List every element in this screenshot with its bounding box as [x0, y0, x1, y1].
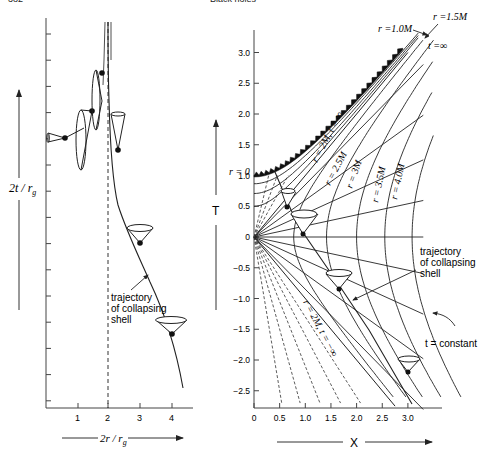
t-const-line-dashed: [254, 237, 320, 403]
right-x-ticks: 00.51.01.52.02.53.0: [252, 403, 414, 423]
left-x-tick-label: 3: [137, 413, 142, 423]
left-x-ticks: 1234: [75, 403, 174, 423]
left-annotation-line-2: of collapsing: [111, 303, 167, 314]
t-const-line-dashed: [254, 237, 341, 403]
right-x-tick-label: 0: [252, 413, 257, 423]
r15-leader-line: [425, 24, 438, 38]
left-x-axis-label: 2r / rg: [100, 432, 127, 447]
right-y-tick-label: 2.5: [238, 78, 250, 88]
right-y-axis-label: T: [212, 204, 220, 218]
right-light-cone-4: [398, 356, 420, 375]
label-t-infinity: t =∞: [428, 40, 447, 51]
t-const-line-dashed: [254, 237, 282, 403]
left-annotation-line-3: shell: [111, 314, 132, 325]
left-x-tick-label: 2: [105, 413, 110, 423]
right-x-tick-label: 3.0: [402, 413, 414, 423]
right-y-tick-label: −1.0: [233, 294, 250, 304]
right-x-axis-label: X: [350, 436, 358, 450]
light-cone-inner-2: [76, 108, 95, 170]
left-y-axis-label: 2t / rg: [9, 181, 36, 197]
label-r-3M: r = 3M: [344, 158, 364, 190]
t-const-line-dashed: [254, 176, 288, 238]
right-annotation-line-1: trajectory: [420, 246, 461, 257]
right-y-tick-label: −2.0: [233, 355, 250, 365]
right-annotation-arrow: [353, 270, 416, 300]
left-panel: 1234: [9, 18, 193, 447]
label-r-0: r = 0: [229, 166, 250, 177]
right-x-tick-label: 0.5: [274, 413, 286, 423]
left-annotation-arrow: [131, 275, 148, 290]
t-const-line-dashed: [254, 237, 361, 403]
left-x-tick-label: 1: [75, 413, 80, 423]
label-r-1-0M: r =1.0M: [378, 23, 413, 34]
right-annotation-line-3: shell: [420, 268, 441, 279]
right-x-tick-label: 1.5: [325, 413, 337, 423]
light-cone-3: [156, 317, 188, 337]
left-annotation-line-1: trajectory: [111, 292, 152, 303]
right-y-ticks: 3.02.52.01.51.00.50−0.5−1.0−1.5−2.0−2.5: [233, 48, 259, 396]
coordinate-grid: [254, 33, 461, 409]
t-constant-arrow: [433, 313, 455, 326]
horizon-future: [254, 53, 408, 238]
right-x-tick-label: 2.5: [376, 413, 388, 423]
right-y-tick-label: 3.0: [238, 48, 250, 58]
right-light-cone-3: [326, 270, 352, 292]
light-cone-1: [111, 112, 125, 153]
light-cone-inner-1: [47, 128, 85, 143]
label-t-constant: t = constant: [425, 338, 477, 349]
label-r-2M-t-neg-inf: r = 2M, t = −∞: [301, 298, 340, 358]
right-x-tick-label: 1.0: [299, 413, 311, 423]
right-x-tick-label: 2.0: [351, 413, 363, 423]
right-y-tick-label: −1.5: [233, 324, 250, 334]
right-light-cone-1: [281, 189, 296, 210]
right-y-tick-label: 2.0: [238, 109, 250, 119]
right-y-tick-label: −0.5: [233, 263, 250, 273]
t-const-line: [254, 237, 423, 410]
label-r-1-5M: r =1.5M: [433, 11, 468, 22]
label-r-3-5M: r = 3.5M: [369, 165, 387, 204]
label-r-4-0M: r = 4.0M: [388, 162, 406, 201]
right-panel: 3.02.52.01.51.00.50−0.5−1.0−1.5−2.0−2.5 …: [212, 11, 477, 450]
right-y-tick-label: 1.5: [238, 140, 250, 150]
r1-leader-line: [413, 30, 427, 35]
right-y-tick-label: 0.5: [238, 201, 250, 211]
left-y-ticks: [46, 34, 51, 401]
right-y-tick-label: 0: [245, 232, 250, 242]
t-const-line-dashed: [254, 237, 300, 403]
horizon-spike-left: [103, 22, 105, 85]
left-x-tick-label: 4: [169, 413, 174, 423]
light-cone-2: [127, 225, 153, 246]
right-annotation-line-2: of collapsing: [420, 257, 476, 268]
figure: 1234: [0, 0, 482, 456]
right-y-tick-label: −2.5: [233, 386, 250, 396]
